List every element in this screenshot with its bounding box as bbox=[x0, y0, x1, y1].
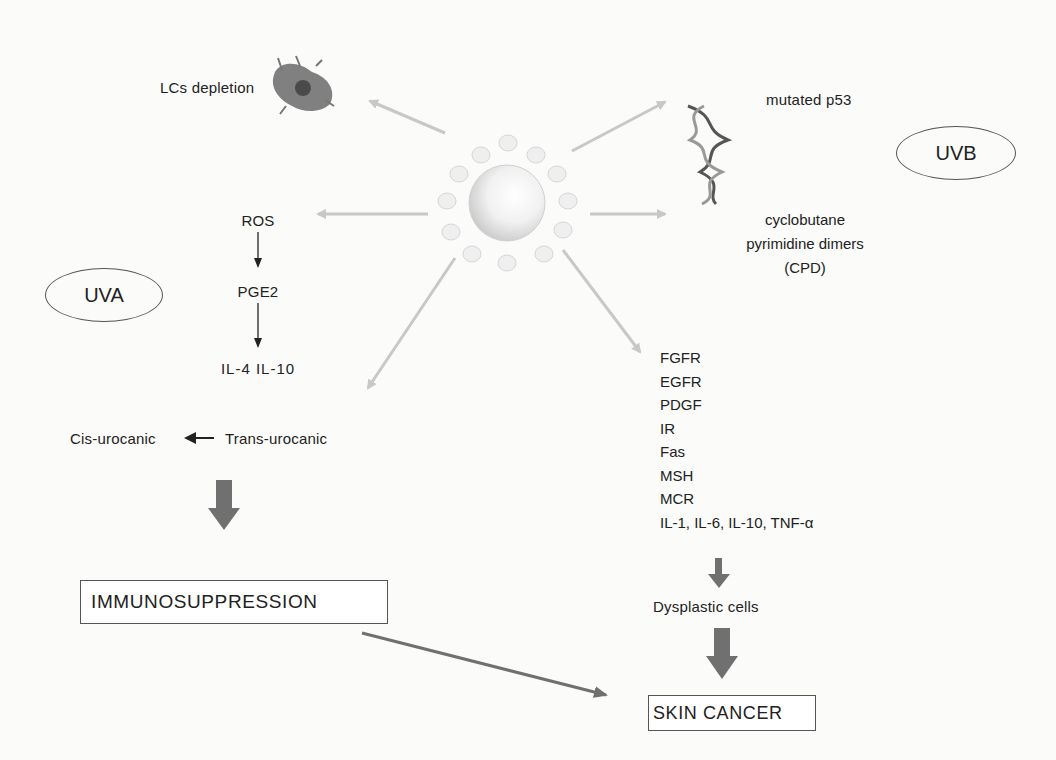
receptor-item: MCR bbox=[660, 487, 813, 511]
dysplastic-cells-label: Dysplastic cells bbox=[653, 598, 759, 615]
receptor-list: FGFR EGFR PDGF IR Fas MSH MCR IL-1, IL-6… bbox=[660, 346, 813, 534]
receptor-item: FGFR bbox=[660, 346, 813, 370]
light-arrows bbox=[318, 101, 665, 388]
cpd-line-2: pyrimidine dimers bbox=[730, 232, 880, 256]
receptor-item: MSH bbox=[660, 464, 813, 488]
receptor-item: IL-1, IL-6, IL-10, TNF-α bbox=[660, 511, 813, 535]
receptor-item: IR bbox=[660, 417, 813, 441]
dna-helix-icon bbox=[688, 106, 728, 204]
thick-arrow-to-skin-cancer bbox=[706, 628, 738, 679]
mutated-p53-label: mutated p53 bbox=[766, 91, 852, 108]
immunosuppression-label: IMMUNOSUPPRESSION bbox=[91, 591, 318, 613]
arrow-to-dysplastic bbox=[708, 558, 730, 588]
thick-arrow-to-immunosuppression bbox=[208, 480, 240, 530]
skin-cancer-box: SKIN CANCER bbox=[648, 695, 816, 731]
receptor-item: EGFR bbox=[660, 370, 813, 394]
skin-cancer-label: SKIN CANCER bbox=[653, 703, 783, 724]
sun-icon bbox=[438, 135, 577, 271]
cpd-line-3: (CPD) bbox=[730, 256, 880, 280]
diagram-arrows bbox=[0, 0, 1056, 760]
cpd-label: cyclobutane pyrimidine dimers (CPD) bbox=[730, 208, 880, 280]
uvb-label: UVB bbox=[935, 142, 976, 165]
cpd-line-1: cyclobutane bbox=[730, 208, 880, 232]
trans-urocanic-label: Trans-urocanic bbox=[225, 430, 327, 447]
receptor-item: PDGF bbox=[660, 393, 813, 417]
pge2-label: PGE2 bbox=[228, 283, 288, 300]
il4-il10-label: IL-4 IL-10 bbox=[198, 360, 318, 377]
receptor-item: Fas bbox=[660, 440, 813, 464]
uvb-oval: UVB bbox=[896, 126, 1016, 180]
arrow-immuno-to-cancer bbox=[362, 633, 606, 695]
ros-label: ROS bbox=[228, 212, 288, 229]
cis-urocanic-label: Cis-urocanic bbox=[70, 430, 156, 447]
uva-label: UVA bbox=[84, 284, 124, 307]
immunosuppression-box: IMMUNOSUPPRESSION bbox=[80, 580, 388, 624]
lcs-depletion-label: LCs depletion bbox=[160, 79, 254, 96]
trans-to-cis-arrow bbox=[184, 432, 214, 444]
uva-oval: UVA bbox=[45, 268, 163, 322]
langerhans-cell-icon bbox=[273, 56, 334, 114]
